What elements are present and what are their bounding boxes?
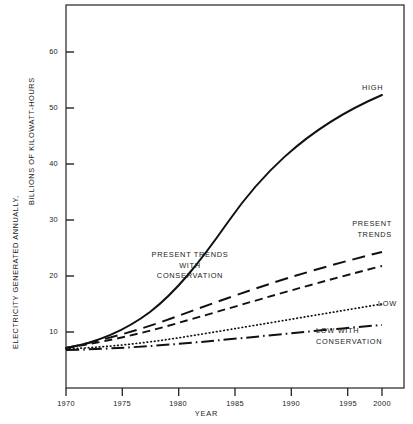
x-tick-label-1975: 1975 — [102, 399, 142, 408]
y-axis-title-line2: BILLIONS OF KILOWATT-HOURS — [27, 77, 36, 205]
annotation-present-trends: PRESENT TRENDS — [292, 219, 392, 240]
annotation-high: HIGH — [362, 83, 383, 94]
x-tick-label-1970: 1970 — [46, 399, 86, 408]
x-tick-label-2000: 2000 — [362, 399, 402, 408]
y-tick-label-40: 40 — [34, 159, 58, 168]
chart-figure: 60 50 40 30 20 10 1970 1975 1980 1985 19… — [0, 0, 413, 424]
annotation-ptwc-line2: WITH — [120, 261, 260, 272]
annotation-present-trends-with-conservation: PRESENT TRENDS WITH CONSERVATION — [120, 250, 260, 282]
y-axis-title-line1: ELECTRICITY GENERATED ANNUALLY, — [11, 195, 20, 349]
annotation-low-with-conservation: LOW WITH CONSERVATION — [316, 326, 413, 347]
x-tick-label-1980: 1980 — [158, 399, 198, 408]
x-tick-label-1990: 1990 — [271, 399, 311, 408]
y-tick-label-60: 60 — [34, 47, 58, 56]
x-axis-title: YEAR — [0, 409, 413, 418]
x-axis-ticks — [66, 388, 382, 396]
annotation-present-trends-line1: PRESENT — [292, 219, 392, 230]
annotation-lwc-line1: LOW WITH — [316, 326, 413, 337]
annotation-ptwc-line1: PRESENT TRENDS — [120, 250, 260, 261]
annotation-present-trends-line2: TRENDS — [292, 230, 392, 241]
x-tick-label-1985: 1985 — [215, 399, 255, 408]
annotation-low: LOW — [378, 299, 397, 310]
y-tick-label-30: 30 — [34, 215, 58, 224]
chart-plot-area — [0, 0, 413, 424]
y-tick-label-20: 20 — [34, 271, 58, 280]
y-tick-label-50: 50 — [34, 103, 58, 112]
annotation-lwc-line2: CONSERVATION — [316, 337, 413, 348]
y-tick-label-10: 10 — [34, 327, 58, 336]
annotation-ptwc-line3: CONSERVATION — [120, 271, 260, 282]
